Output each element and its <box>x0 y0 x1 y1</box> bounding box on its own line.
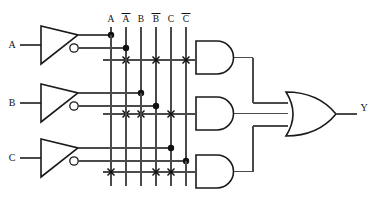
input-label-b: B <box>9 97 16 108</box>
svg-text:A: A <box>123 14 130 24</box>
and-gate-2 <box>196 97 234 130</box>
bus-label-c: C <box>168 14 174 24</box>
logic-circuit-diagram: A B C A A B B <box>0 0 376 213</box>
bus-label-a: A <box>108 14 115 24</box>
junction-and2-b-bar <box>153 103 159 109</box>
inverter-buffer-b <box>41 84 78 122</box>
bus-label-b: B <box>138 14 144 24</box>
inverter-buffer-a <box>41 26 78 64</box>
svg-text:A: A <box>108 14 115 24</box>
inverting-bubble-c <box>70 157 78 165</box>
svg-text:C: C <box>183 14 189 24</box>
svg-text:C: C <box>168 14 174 24</box>
bus-label-b-bar: B <box>152 14 161 25</box>
and-gate-1 <box>196 41 234 74</box>
or-gate <box>286 92 336 136</box>
and-gate-3 <box>196 155 234 188</box>
input-label-c: C <box>9 152 16 163</box>
output-label-y: Y <box>360 102 367 113</box>
junction-and1-c <box>168 145 174 151</box>
junction-and3-a-bar <box>123 45 129 51</box>
inverting-bubble-b <box>70 102 78 110</box>
inverting-bubble-a <box>70 44 78 52</box>
inverter-buffer-c <box>41 139 78 177</box>
input-label-a: A <box>8 39 16 50</box>
svg-text:B: B <box>138 14 144 24</box>
circuit-canvas: A B C A A B B <box>0 0 376 213</box>
svg-text:B: B <box>153 14 159 24</box>
bus-label-a-bar: A <box>122 14 131 25</box>
bus-label-c-bar: C <box>182 14 191 25</box>
